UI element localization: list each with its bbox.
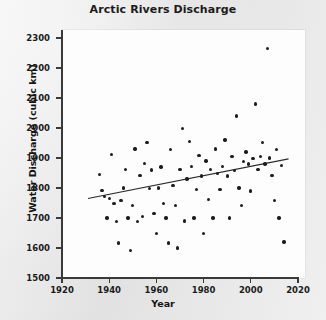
data-point <box>256 168 259 171</box>
data-point <box>235 114 238 117</box>
data-point <box>164 216 167 219</box>
data-point <box>138 174 141 177</box>
data-layer <box>0 0 326 320</box>
data-point <box>100 189 103 192</box>
data-point <box>117 241 120 244</box>
data-point <box>152 212 155 215</box>
data-point <box>145 141 148 144</box>
data-point <box>108 197 111 200</box>
chart-figure: Arctic Rivers Discharge 1500160017001800… <box>0 0 326 320</box>
data-point <box>126 216 129 219</box>
x-axis-label: Year <box>0 298 326 309</box>
data-point <box>270 174 273 177</box>
data-point <box>207 198 210 201</box>
data-point <box>240 204 243 207</box>
data-point <box>223 138 226 141</box>
data-point <box>171 184 174 187</box>
data-point <box>167 241 170 244</box>
data-point <box>282 240 285 243</box>
data-point <box>197 154 200 157</box>
data-point <box>277 216 280 219</box>
data-point <box>247 162 250 165</box>
data-point <box>228 216 231 219</box>
data-point <box>226 174 229 177</box>
data-point <box>211 216 214 219</box>
data-point <box>237 186 240 189</box>
data-point <box>192 216 195 219</box>
data-point <box>218 188 221 191</box>
data-point <box>204 159 207 162</box>
trend-line <box>0 0 326 320</box>
data-point <box>133 147 136 150</box>
data-point <box>119 199 122 202</box>
data-point <box>141 215 144 218</box>
data-point <box>214 147 217 150</box>
data-point <box>122 186 125 189</box>
data-point <box>244 150 247 153</box>
data-point <box>263 162 266 165</box>
data-point <box>185 177 188 180</box>
data-point <box>105 216 108 219</box>
data-point <box>200 174 203 177</box>
data-point <box>176 246 179 249</box>
data-point <box>178 168 181 171</box>
data-point <box>259 155 262 158</box>
data-point <box>112 202 115 205</box>
data-point <box>230 155 233 158</box>
y-axis-label: Water Discharge (cubic km) <box>27 54 38 224</box>
data-point <box>174 204 177 207</box>
data-point <box>115 220 118 223</box>
data-point <box>159 165 162 168</box>
data-point <box>254 102 257 105</box>
